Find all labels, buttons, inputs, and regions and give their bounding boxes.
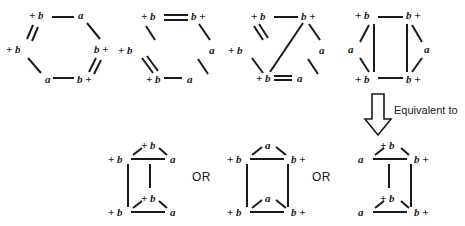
label-hex3-left: + b: [228, 44, 243, 56]
figure-result-3: + b a b + + b a b +: [345, 142, 445, 222]
figure-hexagon-3: + b b + a a + b + b: [230, 6, 340, 91]
label-r3-top-apex: + b: [380, 139, 395, 151]
label-hex2-left: + b: [118, 44, 133, 56]
label-quad4-bottom-left: + b: [355, 73, 370, 85]
bond-diagonal: [270, 23, 303, 72]
bond-right-a-lower: [412, 58, 422, 72]
figure-result-2: a + b b + a + b b +: [222, 142, 322, 222]
label-r2-bottom-left: + b: [227, 206, 242, 218]
label-quad4-top-right: b +: [406, 9, 421, 21]
bond-bottom-apex-left: [252, 200, 262, 208]
figure-hexagon-2: + b b + a a + b + b: [120, 6, 230, 91]
or-separator-1: OR: [192, 170, 211, 184]
bond-right-a-upper: [412, 25, 422, 42]
label-quad4-right: a: [424, 43, 430, 55]
label-r3-bottom-apex: + b: [380, 192, 395, 204]
label-r1-top-right: a: [170, 153, 176, 165]
bond-left-a-lower: [360, 58, 369, 72]
label-hex1-bottom-left: a: [45, 73, 51, 85]
label-quad4-bottom-right: b +: [406, 73, 421, 85]
label-hex2-right: a: [209, 44, 215, 56]
label-r3-top-left: a: [358, 153, 364, 165]
label-r1-bottom-apex: + b: [141, 192, 156, 204]
figure-quad-4: + b b + a a + b b +: [340, 6, 450, 91]
label-hex2-bottom-left: + b: [146, 73, 161, 85]
label-quad4-left: a: [348, 43, 354, 55]
bond-left-a-upper: [360, 25, 369, 42]
label-r2-bottom-apex: a: [265, 192, 271, 204]
equivalent-arrow: [363, 93, 393, 137]
label-r2-top-right: b +: [291, 153, 306, 165]
label-hex3-top-right: b +: [301, 10, 316, 22]
bond-top-apex-left: [252, 147, 262, 155]
label-quad4-top-left: + b: [355, 9, 370, 21]
label-hex1-top-right: a: [78, 9, 84, 21]
bond-left-upper: [146, 26, 155, 40]
equivalent-to-caption: Equivalent to: [394, 104, 458, 116]
label-r3-bottom-right: b +: [414, 206, 429, 218]
label-hex3-top-left: + b: [251, 10, 266, 22]
label-r1-top-left: + b: [108, 153, 123, 165]
label-r2-bottom-right: b +: [291, 206, 306, 218]
down-arrow-shape: [365, 94, 391, 135]
bond-top-apex-right: [159, 148, 167, 155]
label-r1-bottom-right: a: [170, 206, 176, 218]
or-separator-2: OR: [312, 170, 331, 184]
diagram-canvas: + b a b + b + a + b + b b + a a + b + b: [0, 0, 465, 226]
label-r3-top-right: b +: [414, 153, 429, 165]
bond-bottom-apex-right: [276, 200, 286, 208]
bond-right-lower: [198, 59, 208, 74]
bond-top-apex-right: [276, 147, 286, 155]
bond-bottom-apex-right: [159, 201, 167, 208]
bond-bottom-apex-right: [401, 201, 409, 208]
label-hex2-top-right: b +: [191, 10, 206, 22]
label-r2-top-left: + b: [227, 153, 242, 165]
bond-top-right: [87, 23, 100, 39]
label-hex3-bottom-left: + b: [256, 72, 271, 84]
label-hex3-bottom-right: a: [297, 72, 303, 84]
bond-top-apex-right: [401, 148, 409, 155]
label-r1-bottom-left: + b: [108, 206, 123, 218]
bond-right-lower: [308, 59, 318, 74]
label-hex2-top-left: + b: [141, 10, 156, 22]
label-r3-bottom-left: a: [358, 206, 364, 218]
bond-left-upper-b: [32, 27, 38, 41]
bond-left-upper-a: [27, 25, 33, 39]
label-hex2-bottom-right: a: [187, 73, 193, 85]
figure-hexagon-1: + b a b + b + a + b: [8, 6, 118, 91]
label-hex1-left: + b: [6, 43, 21, 55]
bond-bottom-left: [28, 58, 41, 73]
label-hex1-bottom-right: b +: [77, 73, 92, 85]
bond-top-right: [199, 24, 210, 40]
label-r1-top-apex: + b: [141, 139, 156, 151]
label-hex1-top-left: + b: [29, 9, 44, 21]
figure-result-1: + b + b a + b + b a: [103, 142, 203, 222]
bond-top-right: [309, 24, 320, 40]
label-hex1-right: b +: [94, 43, 109, 55]
label-r2-top-apex: a: [265, 139, 271, 151]
label-hex3-right: a: [319, 44, 325, 56]
